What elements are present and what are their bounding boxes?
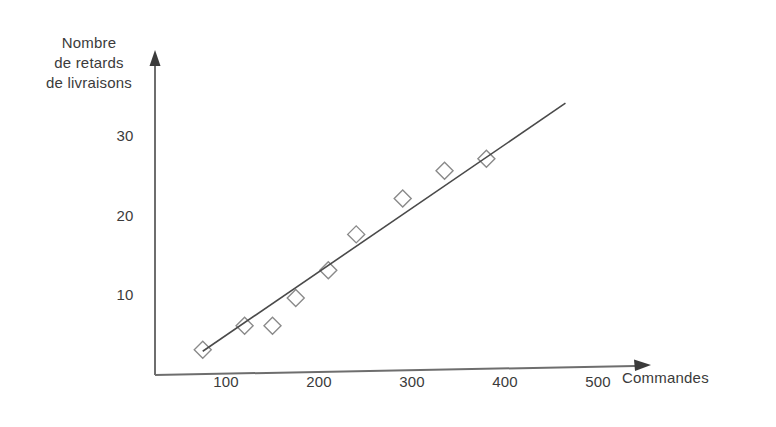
y-axis bbox=[150, 50, 161, 375]
x-axis bbox=[155, 360, 651, 376]
data-point-marker bbox=[264, 317, 281, 334]
scatter-chart: Nombre de retards de livraisons Commande… bbox=[0, 0, 776, 427]
data-point-marker bbox=[194, 341, 211, 358]
trendline bbox=[203, 103, 566, 351]
x-axis-arrow-icon bbox=[634, 360, 651, 372]
data-point-marker bbox=[348, 226, 365, 243]
data-point-marker bbox=[436, 162, 453, 179]
data-point-marker bbox=[394, 190, 411, 207]
plot-area bbox=[0, 0, 776, 427]
y-axis-arrow-icon bbox=[150, 50, 161, 66]
